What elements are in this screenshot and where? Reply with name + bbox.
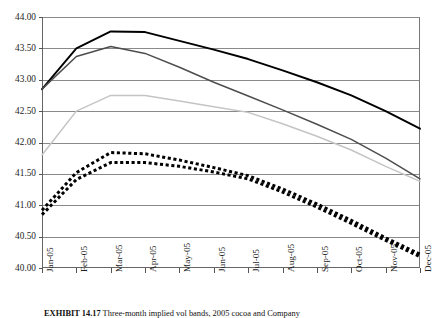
x-tick-mark <box>76 268 77 273</box>
y-tick-mark <box>39 80 43 81</box>
x-tick-label: Jun-05 <box>218 247 227 272</box>
x-tick-label: Mar-05 <box>115 245 124 272</box>
y-tick-label: 42.00 <box>0 138 36 147</box>
y-tick-mark <box>39 143 43 144</box>
x-tick-mark <box>248 268 249 273</box>
x-tick-label: Nov-05 <box>390 244 399 272</box>
y-tick-mark <box>39 237 43 238</box>
x-tick-label: Feb-05 <box>80 246 89 272</box>
caption-text: Three-month implied vol bands, 2005 coco… <box>103 309 300 318</box>
plot-area <box>42 17 420 268</box>
x-tick-mark <box>214 268 215 273</box>
gridline <box>43 17 419 18</box>
y-tick-label: 40.50 <box>0 232 36 241</box>
caption-label: EXHIBIT 14.17 <box>44 309 101 318</box>
x-tick-mark <box>179 268 180 273</box>
y-tick-mark <box>39 205 43 206</box>
y-tick-label: 40.00 <box>0 264 36 273</box>
y-tick-mark <box>39 174 43 175</box>
x-tick-mark <box>111 268 112 273</box>
y-tick-label: 42.50 <box>0 107 36 116</box>
y-tick-mark <box>39 111 43 112</box>
gridline <box>43 237 419 238</box>
x-tick-label: Apr-05 <box>149 246 158 272</box>
figure-caption: EXHIBIT 14.17 Three-month implied vol ba… <box>44 309 444 318</box>
y-tick-label: 41.00 <box>0 201 36 210</box>
x-tick-mark <box>351 268 352 273</box>
y-tick-label: 43.50 <box>0 44 36 53</box>
gridline <box>43 80 419 81</box>
x-tick-mark <box>420 268 421 273</box>
x-tick-label: Dec-05 <box>424 245 433 272</box>
x-tick-mark <box>317 268 318 273</box>
x-tick-mark <box>42 268 43 273</box>
x-tick-mark <box>283 268 284 273</box>
x-tick-label: Sep-05 <box>321 246 330 272</box>
gridline <box>43 205 419 206</box>
y-tick-label: 44.00 <box>0 13 36 22</box>
x-tick-label: Oct-05 <box>355 246 364 272</box>
gridline <box>43 174 419 175</box>
y-tick-label: 41.50 <box>0 169 36 178</box>
x-tick-label: May-05 <box>183 243 192 272</box>
x-tick-label: Jan-05 <box>46 248 55 273</box>
x-tick-label: Aug-05 <box>287 244 296 272</box>
x-tick-mark <box>386 268 387 273</box>
y-tick-mark <box>39 17 43 18</box>
x-tick-mark <box>145 268 146 273</box>
y-tick-mark <box>39 48 43 49</box>
gridline <box>43 111 419 112</box>
y-tick-label: 43.00 <box>0 75 36 84</box>
gridline <box>43 48 419 49</box>
x-tick-label: Jul-05 <box>252 249 261 272</box>
gridline <box>43 143 419 144</box>
